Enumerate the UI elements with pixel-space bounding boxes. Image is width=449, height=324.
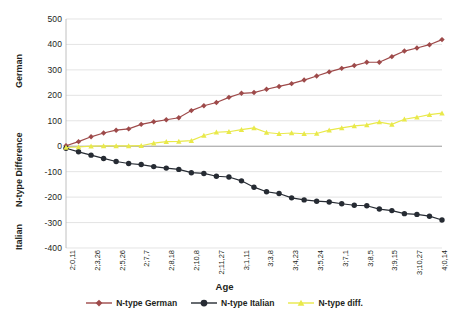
data-point <box>314 198 319 203</box>
legend-item[interactable]: N-type German <box>86 298 177 308</box>
x-axis-tick-label: 3;8,5 <box>366 250 375 267</box>
legend-diamond-icon <box>86 298 112 308</box>
series-line <box>66 113 442 147</box>
x-axis-tick-label: 2;5,26 <box>118 250 127 271</box>
data-point <box>126 161 131 166</box>
data-point <box>239 91 244 96</box>
data-point <box>364 60 369 65</box>
data-point <box>139 162 144 167</box>
data-point <box>276 84 281 89</box>
legend-label: N-type diff. <box>318 298 362 308</box>
series-n-type-german <box>63 37 444 149</box>
y-axis-tick-label: 0 <box>57 141 62 151</box>
data-point <box>352 203 357 208</box>
data-point <box>151 119 156 124</box>
chart-legend: N-type GermanN-type ItalianN-type diff. <box>0 298 449 308</box>
legend-label: N-type German <box>116 298 177 308</box>
y-axis-tick-label: 200 <box>48 90 62 100</box>
data-point <box>264 87 269 92</box>
data-point <box>301 77 306 82</box>
data-point <box>427 42 432 47</box>
x-axis-tick-label: 2;7,7 <box>142 250 151 267</box>
data-point <box>76 149 81 154</box>
data-point <box>289 195 294 200</box>
data-point <box>113 127 118 132</box>
data-point <box>402 211 407 216</box>
data-point <box>377 206 382 211</box>
x-axis-tick-label: 3;10,27 <box>415 250 424 275</box>
legend-label: N-type Italian <box>221 298 274 308</box>
x-axis-tick-label: 2;0,11 <box>68 250 77 270</box>
data-point <box>88 152 93 157</box>
data-point <box>414 212 419 217</box>
data-point <box>139 122 144 127</box>
data-point <box>251 90 256 95</box>
data-point <box>377 60 382 65</box>
data-point <box>201 171 206 176</box>
x-axis-tick-label: 2;10,8 <box>192 250 201 271</box>
y-axis-tick-label: 400 <box>48 39 62 49</box>
data-point <box>264 189 269 194</box>
legend-item[interactable]: N-type diff. <box>288 298 362 308</box>
data-point <box>239 178 244 183</box>
y-axis-tick-label: -100 <box>45 167 62 177</box>
data-point <box>176 167 181 172</box>
data-point <box>96 300 103 307</box>
data-point <box>339 66 344 71</box>
data-point <box>339 201 344 206</box>
series-line <box>66 148 442 220</box>
x-axis-tick-label: 3;1,11 <box>242 250 251 270</box>
y-axis-tick-label: 500 <box>48 14 62 24</box>
plot-area <box>66 19 442 248</box>
series-n-type-italian <box>63 146 444 223</box>
data-point <box>226 174 231 179</box>
x-axis-tick-label: 4;0,14 <box>440 250 449 271</box>
x-axis-tick-label: 2;3,26 <box>93 250 102 271</box>
data-point <box>189 170 194 175</box>
data-point <box>276 191 281 196</box>
data-point <box>113 159 118 164</box>
data-point <box>164 165 169 170</box>
x-axis-tick-label: 2;8,18 <box>167 250 176 271</box>
data-point <box>389 54 394 59</box>
data-point <box>352 63 357 68</box>
y-axis-tick-label: -300 <box>45 218 62 228</box>
y-axis-tick-labels: 5004003002001000-100-200-300-400 <box>0 0 62 324</box>
data-point <box>176 115 181 120</box>
x-axis-tick-label: 3;9,15 <box>390 250 399 271</box>
x-axis-title: Age <box>0 281 449 292</box>
data-point <box>427 213 432 218</box>
x-axis-tick-label: 3;4,23 <box>291 250 300 271</box>
series-layer <box>66 19 442 248</box>
y-axis-tick-label: -400 <box>45 243 62 253</box>
x-axis-tick-label: 3;3,8 <box>266 250 275 267</box>
y-axis-tick-label: 300 <box>48 65 62 75</box>
legend-circle-icon <box>191 298 217 308</box>
data-point <box>214 174 219 179</box>
data-point <box>151 164 156 169</box>
legend-triangle-icon <box>288 298 314 308</box>
data-point <box>327 69 332 74</box>
data-point <box>327 199 332 204</box>
data-point <box>314 73 319 78</box>
data-point <box>226 95 231 100</box>
x-axis-tick-label: 3;7,1 <box>341 250 350 267</box>
data-point <box>126 126 131 131</box>
data-point <box>88 134 93 139</box>
legend-item[interactable]: N-type Italian <box>191 298 274 308</box>
x-axis-tick-label: 3;5,24 <box>316 250 325 271</box>
data-point <box>189 108 194 113</box>
data-point <box>301 197 306 202</box>
data-point <box>76 139 81 144</box>
y-axis-tick-label: 100 <box>48 116 62 126</box>
x-axis-tick-label: 2;11,27 <box>217 250 226 274</box>
data-point <box>101 130 106 135</box>
y-axis-tick-label: -200 <box>45 192 62 202</box>
data-point <box>364 203 369 208</box>
data-point <box>101 156 106 161</box>
data-point <box>389 208 394 213</box>
data-point <box>439 37 444 42</box>
data-point <box>214 100 219 105</box>
data-point <box>439 217 444 222</box>
data-point <box>414 45 419 50</box>
